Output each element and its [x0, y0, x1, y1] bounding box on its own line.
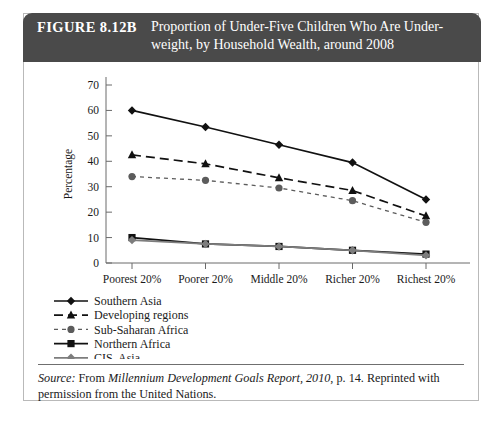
legend-item-developing-regions[interactable]: Developing regions: [54, 308, 189, 322]
source-label: Source:: [38, 371, 75, 385]
y-axis-tick-label: 60: [88, 104, 100, 116]
data-point-marker: [201, 123, 209, 131]
y-axis-title: Percentage: [62, 149, 75, 199]
y-axis-tick-label: 70: [88, 79, 100, 91]
figure-title-line-1: Proportion of Under-Five Children Who Ar…: [151, 19, 443, 34]
data-point-marker: [128, 106, 136, 114]
source-note: Source: From Millennium Development Goal…: [38, 370, 466, 402]
legend-label: Southern Asia: [94, 294, 162, 308]
y-axis-tick-label: 40: [88, 155, 100, 167]
data-point-marker: [422, 195, 430, 203]
figure-number-label: FIGURE 8.12B: [37, 18, 137, 36]
figure-title-line-2: weight, by Household Wealth, around 2008: [151, 37, 394, 52]
figure-container: FIGURE 8.12B Proportion of Under-Five Ch…: [23, 13, 479, 401]
legend-item-cis-asia[interactable]: CIS, Asia: [54, 351, 141, 359]
y-axis-tick-label: 0: [93, 257, 99, 269]
source-divider: [38, 364, 464, 365]
y-axis-tick-label: 50: [88, 130, 100, 142]
legend-item-sub-saharan-africa[interactable]: Sub-Saharan Africa: [54, 323, 189, 337]
x-axis-tick-label: Poorest 20%: [103, 273, 162, 285]
legend-label: Sub-Saharan Africa: [94, 323, 189, 337]
legend-item-southern-asia[interactable]: Southern Asia: [54, 294, 162, 308]
data-point-marker: [128, 150, 136, 158]
y-axis-tick-label: 10: [88, 232, 100, 244]
series-cis-asia: [128, 236, 430, 260]
data-point-marker: [275, 141, 283, 149]
legend-item-northern-africa[interactable]: Northern Africa: [54, 337, 171, 351]
data-point-marker: [67, 326, 74, 333]
data-point-marker: [275, 184, 282, 191]
figure-header: FIGURE 8.12B Proportion of Under-Five Ch…: [23, 13, 481, 62]
x-axis-tick-label: Poorer 20%: [178, 273, 233, 285]
source-italic-title: Millennium Development Goals Report, 201…: [108, 371, 330, 385]
data-point-marker: [202, 177, 209, 184]
data-point-marker: [67, 354, 75, 359]
legend-label: Developing regions: [94, 308, 189, 322]
x-axis-tick-label: Richer 20%: [325, 273, 380, 285]
x-axis-tick-label: Richest 20%: [397, 273, 456, 285]
chart-plot-area: 010203040506070PercentagePoorest 20%Poor…: [24, 63, 480, 359]
data-point-marker: [128, 173, 135, 180]
source-text-before: From: [75, 371, 108, 385]
data-point-marker: [349, 197, 356, 204]
legend-label: Northern Africa: [94, 337, 171, 351]
y-axis-tick-label: 30: [88, 181, 100, 193]
line-chart: 010203040506070PercentagePoorest 20%Poor…: [24, 63, 480, 359]
legend-label: CIS, Asia: [94, 351, 141, 359]
data-point-marker: [348, 158, 356, 166]
y-axis-tick-label: 20: [88, 206, 100, 218]
data-point-marker: [67, 340, 74, 347]
figure-title: Proportion of Under-Five Children Who Ar…: [151, 18, 443, 55]
series-line: [132, 177, 426, 223]
data-point-marker: [422, 219, 429, 226]
x-axis-tick-label: Middle 20%: [250, 273, 308, 285]
data-point-marker: [67, 297, 75, 305]
data-point-marker: [348, 186, 356, 194]
